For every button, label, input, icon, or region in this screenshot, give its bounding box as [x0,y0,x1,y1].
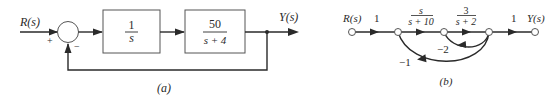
block1-denominator: s [129,31,134,45]
output-label-y: Y(s) [527,12,545,25]
arrow-icon [457,41,467,49]
caption-b: (b) [440,75,453,88]
node-4 [486,29,493,36]
control-diagrams: R(s) + − 1 s 50 s + 4 Y(s) (a) [0,0,559,98]
arrow-icon [65,43,72,53]
feedback-loop-minus2 [444,32,489,47]
arrow-icon [175,29,185,36]
arrow-icon [462,29,471,36]
block-diagram-a: R(s) + − 1 s 50 s + 4 Y(s) (a) [19,10,299,95]
arrow-icon [288,28,299,36]
branch-gain-4: 1 [511,12,517,24]
block2-numerator: 50 [209,17,221,31]
summing-junction [58,22,79,43]
minus-sign: − [74,41,80,52]
node-input [349,29,356,36]
plus-sign: + [47,35,53,46]
arrow-icon [93,29,103,36]
output-label-y: Y(s) [279,10,298,24]
arrow-icon [416,29,425,36]
block1-numerator: 1 [129,18,135,32]
branch-gain-1: 1 [374,12,380,24]
branch3-numerator: 3 [464,5,469,16]
loop-gain-minus1: −1 [399,56,411,68]
node-3 [441,29,448,36]
caption-a: (a) [157,81,171,95]
signal-flow-graph-b: R(s) 1 s s + 10 3 s + 2 1 Y(s) −2 −1 (b) [342,5,545,88]
branch3-denominator: s + 2 [456,16,477,27]
branch2-numerator: s [419,5,423,16]
arrow-icon [508,29,517,36]
arrow-icon [370,29,379,36]
node-output [532,29,539,36]
node-2 [395,29,402,36]
loop-gain-minus2: −2 [437,43,449,55]
input-label-r: R(s) [342,12,362,25]
block2-denominator: s + 4 [204,34,227,46]
input-label-r: R(s) [19,15,40,29]
branch2-denominator: s + 10 [408,16,434,27]
